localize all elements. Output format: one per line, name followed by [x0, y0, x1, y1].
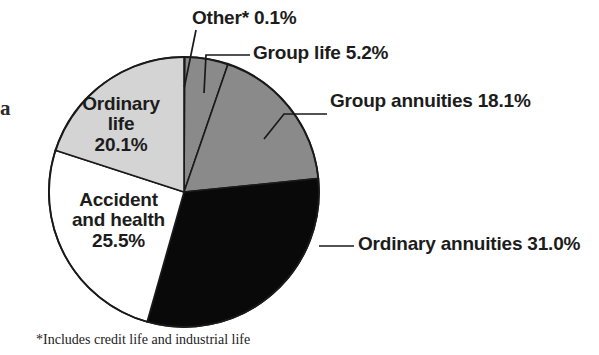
slice-label-ordinary-annuities: Ordinary annuities 31.0%	[358, 233, 580, 255]
slice-label-other: Other* 0.1%	[192, 7, 296, 29]
slice-label-group-life: Group life 5.2%	[253, 42, 388, 64]
slice-label-accident-line2: and health	[46, 210, 191, 230]
slice-label-ordinary-life-line1: Ordinary	[60, 94, 182, 114]
slice-label-ordinary-life-line2: life	[60, 114, 182, 134]
slice-label-accident-and-health: Accident and health 25.5%	[46, 190, 191, 251]
slice-label-group-annuities: Group annuities 18.1%	[330, 90, 531, 112]
slice-label-accident-line1: Accident	[46, 190, 191, 210]
chart-footnote: *Includes credit life and industrial lif…	[36, 332, 250, 348]
pie-chart-figure: a Other* 0.1% Group life 5.2% Group annu…	[0, 0, 599, 355]
slice-label-accident-value: 25.5%	[46, 231, 191, 251]
slice-label-ordinary-life-value: 20.1%	[60, 135, 182, 155]
slice-label-ordinary-life: Ordinary life 20.1%	[60, 94, 182, 155]
